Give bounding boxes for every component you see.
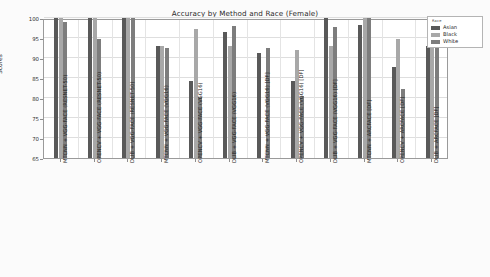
legend-item-asian: Asian [431, 24, 479, 31]
x-tick-label: MTCNN + VGG-FACE (VGG16) [DF] [264, 72, 270, 163]
x-tick-label: OPENCV + VGG-FACE (RESNET-50) [96, 72, 102, 163]
bar-asian [189, 81, 193, 158]
y-tick-mark [40, 99, 43, 100]
y-tick-mark [40, 59, 43, 60]
y-axis-label: Scores [0, 54, 3, 74]
gridline-y [44, 57, 447, 58]
bar-asian [122, 18, 126, 158]
bar-asian [156, 46, 160, 158]
x-tick-label: MTCNN + VGG-FACE (RESNET-50) [62, 75, 68, 163]
x-tick-mark [330, 159, 331, 162]
legend-title: Race [432, 19, 479, 23]
gridline-y [44, 137, 447, 138]
bar-asian [54, 18, 58, 158]
gridline-x [382, 20, 383, 158]
x-tick-mark [60, 159, 61, 162]
legend-item-white: White [431, 38, 479, 45]
x-tick-label: DLIB + VGG-FACE (RESNET-50) [129, 82, 135, 164]
x-tick-label: OPENCV + ARCFACE [DF] [399, 97, 405, 163]
y-tick-label: 100 [13, 16, 39, 22]
gridline-y [44, 117, 447, 118]
bar-asian [88, 18, 92, 158]
legend-item-black: Black [431, 31, 479, 38]
legend-swatch-white [431, 40, 440, 44]
x-tick-label: DLIB + ARCFACE [DF] [433, 106, 439, 163]
gridline-x [145, 20, 146, 158]
gridline-x [314, 20, 315, 158]
gridline-x [179, 20, 180, 158]
gridline-x [112, 20, 113, 158]
gridline-x [348, 20, 349, 158]
gridline-x [213, 20, 214, 158]
x-tick-mark [161, 159, 162, 162]
x-tick-mark [296, 159, 297, 162]
y-tick-label: 70 [13, 136, 39, 142]
y-tick-label: 80 [13, 96, 39, 102]
x-tick-mark [364, 159, 365, 162]
x-tick-label: OPENCV + VGG-FACE (VGG16) [197, 82, 203, 163]
gridline-x [415, 20, 416, 158]
bar-asian [426, 46, 430, 158]
x-tick-label: DLIB + VGG-FACE (VGG16) [231, 92, 237, 163]
x-tick-mark [431, 159, 432, 162]
x-tick-label: MTCNN + ARCFACE [DF] [366, 100, 372, 163]
y-tick-mark [40, 159, 43, 160]
gridline-y [44, 17, 447, 18]
plot-area [43, 19, 448, 159]
bar-asian [291, 81, 295, 158]
x-tick-label: MTCNN + VGG-FACE (VGG16) [163, 85, 169, 163]
chart-figure: Accuracy by Method and Race (Female) Sco… [0, 0, 490, 277]
y-tick-mark [40, 119, 43, 120]
y-tick-label: 65 [13, 156, 39, 162]
x-tick-mark [229, 159, 230, 162]
gridline-y [44, 97, 447, 98]
gridline-y [44, 77, 447, 78]
legend-swatch-black [431, 33, 440, 37]
y-tick-label: 90 [13, 56, 39, 62]
y-tick-mark [40, 39, 43, 40]
x-tick-label: OPENCV + VGG-FACE (VGG16) [DF] [298, 69, 304, 163]
y-tick-label: 95 [13, 36, 39, 42]
gridline-x [247, 20, 248, 158]
x-tick-mark [195, 159, 196, 162]
y-tick-label: 85 [13, 76, 39, 82]
y-tick-mark [40, 79, 43, 80]
x-tick-mark [94, 159, 95, 162]
y-tick-mark [40, 19, 43, 20]
gridline-x [78, 20, 79, 158]
legend-label: Asian [443, 24, 457, 31]
bar-asian [324, 18, 328, 158]
y-tick-label: 75 [13, 116, 39, 122]
x-tick-label: DLIB + VGG-FACE (VGG16) [DF] [332, 79, 338, 163]
legend-swatch-asian [431, 26, 440, 30]
bar-asian [358, 25, 362, 158]
gridline-y [44, 37, 447, 38]
legend-label: White [443, 38, 458, 45]
y-tick-mark [40, 139, 43, 140]
bar-asian [392, 67, 396, 158]
bar-asian [257, 53, 261, 158]
chart-legend: Race AsianBlackWhite [427, 16, 483, 48]
bar-asian [223, 32, 227, 158]
legend-label: Black [443, 31, 457, 38]
gridline-x [280, 20, 281, 158]
